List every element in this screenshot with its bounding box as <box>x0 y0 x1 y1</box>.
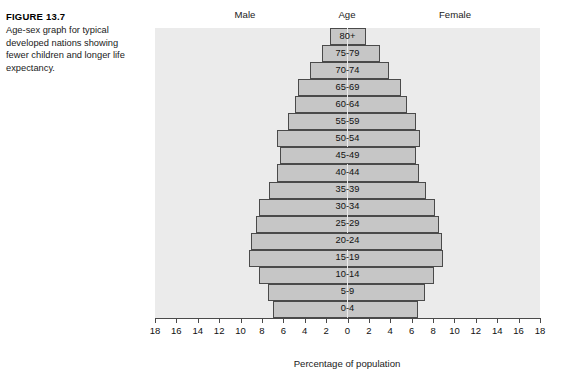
chart-plot-area: 80+75-7970-7465-6960-6455-5950-5445-4940… <box>155 28 540 318</box>
age-group-label: 80+ <box>340 32 356 41</box>
age-group-label: 30-34 <box>336 202 360 211</box>
age-group-label: 25-29 <box>336 220 360 229</box>
x-axis-tick-label: 2 <box>366 325 371 336</box>
x-axis-tick <box>390 318 391 323</box>
age-group-label: 0-4 <box>341 305 354 314</box>
x-axis: 18161412108642024681012141618 <box>155 318 540 346</box>
x-axis-tick <box>262 318 263 323</box>
bar-female <box>348 301 419 318</box>
bar-male <box>251 233 347 250</box>
x-axis-tick <box>454 318 455 323</box>
age-group-label: 15-19 <box>336 254 360 263</box>
x-axis-tick <box>497 318 498 323</box>
bar-female <box>348 250 443 267</box>
bar-male <box>268 284 347 301</box>
bar-female <box>348 233 442 250</box>
x-axis-tick-label: 6 <box>281 325 286 336</box>
x-axis-tick-label: 18 <box>150 325 161 336</box>
bar-male <box>259 267 348 284</box>
x-axis-tick-label: 14 <box>192 325 203 336</box>
x-axis-tick-label: 12 <box>214 325 225 336</box>
x-axis-tick-label: 16 <box>171 325 182 336</box>
x-axis-tick <box>348 318 349 323</box>
x-axis-tick-label: 14 <box>492 325 503 336</box>
x-axis-tick <box>433 318 434 323</box>
x-axis-tick <box>369 318 370 323</box>
figure-caption-block: FIGURE 13.7 Age-sex graph for typical de… <box>6 10 134 74</box>
age-group-label: 75-79 <box>336 49 360 58</box>
x-axis-tick-label: 10 <box>235 325 246 336</box>
x-axis-tick <box>326 318 327 323</box>
figure-caption-text: Age-sex graph for typical developed nati… <box>6 24 134 74</box>
bar-male <box>259 199 348 216</box>
x-axis-title: Percentage of population <box>294 358 401 369</box>
age-group-label: 20-24 <box>336 237 360 246</box>
bar-male <box>256 216 348 233</box>
x-axis-tick <box>305 318 306 323</box>
age-group-label: 50-54 <box>336 134 360 143</box>
header-label-male: Male <box>235 9 256 20</box>
x-axis-tick <box>519 318 520 323</box>
x-axis-tick <box>412 318 413 323</box>
bar-female <box>348 267 435 284</box>
x-axis-tick-label: 6 <box>409 325 414 336</box>
x-axis-tick <box>283 318 284 323</box>
x-axis-tick <box>219 318 220 323</box>
x-axis-tick <box>198 318 199 323</box>
x-axis-tick <box>155 318 156 323</box>
x-axis-tick-label: 2 <box>323 325 328 336</box>
bar-male <box>249 250 347 267</box>
population-pyramid-chart: Male Age Female 80+75-7970-7465-6960-645… <box>150 6 580 346</box>
figure-number: FIGURE 13.7 <box>6 10 134 23</box>
x-axis-tick-label: 10 <box>449 325 460 336</box>
bar-female <box>348 284 425 301</box>
x-axis-tick-label: 8 <box>259 325 264 336</box>
x-axis-tick <box>476 318 477 323</box>
chart-header-row: Male Age Female <box>150 6 580 28</box>
x-axis-tick-label: 0 <box>345 325 350 336</box>
x-axis-tick <box>176 318 177 323</box>
age-group-label: 35-39 <box>336 185 360 194</box>
x-axis-tick-label: 4 <box>302 325 307 336</box>
bar-male <box>273 301 348 318</box>
age-group-label: 40-44 <box>336 168 360 177</box>
x-axis-tick <box>241 318 242 323</box>
bar-female <box>348 216 440 233</box>
age-group-label: 65-69 <box>336 83 360 92</box>
x-axis-tick-label: 16 <box>513 325 524 336</box>
age-group-label: 55-59 <box>336 117 360 126</box>
x-axis-tick <box>540 318 541 323</box>
x-axis-tick-label: 8 <box>430 325 435 336</box>
x-axis-tick-label: 12 <box>471 325 482 336</box>
x-axis-tick-label: 4 <box>388 325 393 336</box>
header-label-female: Female <box>439 9 471 20</box>
age-group-label: 45-49 <box>336 151 360 160</box>
age-group-label: 70-74 <box>336 66 360 75</box>
age-group-label: 10-14 <box>336 271 360 280</box>
bar-female <box>348 199 436 216</box>
age-group-label: 60-64 <box>336 100 360 109</box>
header-label-age: Age <box>338 9 355 20</box>
x-axis-tick-label: 18 <box>535 325 546 336</box>
age-group-label: 5-9 <box>341 288 354 297</box>
